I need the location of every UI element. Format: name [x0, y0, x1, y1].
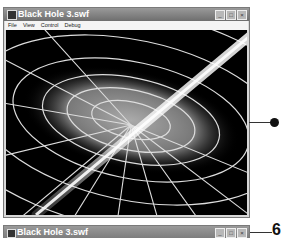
minimize-button[interactable]: _ [215, 10, 225, 20]
flash-player-window: Black Hole 3.swf _ □ × File View Control… [3, 7, 250, 218]
close-button-2[interactable]: × [237, 228, 247, 238]
second-flash-player-window: Black Hole 3.swf _ □ × [3, 225, 250, 238]
callout-line-1 [249, 122, 271, 123]
window-title: Black Hole 3.swf [18, 8, 89, 21]
black-hole-animation [6, 30, 247, 215]
maximize-button-2[interactable]: □ [226, 228, 236, 238]
flash-stage[interactable] [6, 30, 247, 215]
minimize-button-2[interactable]: _ [215, 228, 225, 238]
app-icon-2 [7, 229, 16, 238]
title-bar[interactable]: Black Hole 3.swf _ □ × [4, 8, 249, 21]
maximize-button[interactable]: □ [226, 10, 236, 20]
menu-control[interactable]: Control [41, 21, 59, 30]
menu-view[interactable]: View [23, 21, 35, 30]
close-button[interactable]: × [237, 10, 247, 20]
menu-file[interactable]: File [8, 21, 17, 30]
callout-number: 6 [272, 221, 281, 238]
callout-line-2 [250, 232, 272, 233]
window-title-2: Black Hole 3.swf [17, 227, 88, 237]
menu-debug[interactable]: Debug [64, 21, 80, 30]
menu-bar: File View Control Debug [5, 21, 248, 30]
callout-dot-1 [270, 118, 279, 127]
app-icon [7, 10, 17, 20]
